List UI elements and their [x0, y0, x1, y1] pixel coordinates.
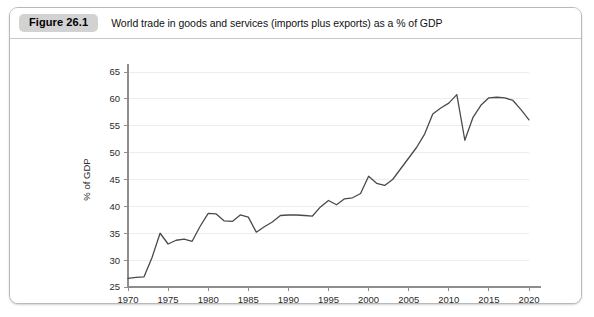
x-tick-label: 1985 [238, 294, 259, 303]
y-axis-ticks-group: 253035404550556065 [109, 66, 128, 292]
y-axis-title: % of GDP [81, 158, 92, 200]
figure-card: Figure 26.1 World trade in goods and ser… [9, 7, 582, 304]
x-axis-ticks-group: 1970197519801985199019952000200520102015… [117, 287, 539, 303]
gridlines-group [128, 72, 529, 260]
x-tick-label: 1990 [278, 294, 299, 303]
x-tick-label: 2020 [518, 294, 539, 303]
x-tick-label: 2010 [438, 294, 459, 303]
y-tick-label: 40 [109, 201, 120, 212]
x-tick-label: 1980 [198, 294, 219, 303]
line-chart: 253035404550556065 197019751980198519901… [10, 39, 583, 303]
chart-plot-region: 253035404550556065 197019751980198519901… [10, 39, 581, 303]
y-tick-label: 55 [109, 120, 120, 131]
figure-header: Figure 26.1 World trade in goods and ser… [10, 8, 581, 39]
x-tick-label: 2015 [478, 294, 499, 303]
y-tick-label: 50 [109, 147, 120, 158]
y-tick-label: 65 [109, 66, 120, 77]
x-tick-label: 2005 [398, 294, 419, 303]
figure-number-badge: Figure 26.1 [19, 14, 98, 32]
figure-caption: World trade in goods and services (impor… [111, 17, 442, 29]
x-tick-label: 1970 [117, 294, 138, 303]
trade-share-series-line [128, 95, 529, 279]
x-tick-label: 2000 [358, 294, 379, 303]
y-tick-label: 60 [109, 93, 120, 104]
y-tick-label: 35 [109, 228, 120, 239]
x-tick-label: 1975 [158, 294, 179, 303]
y-tick-label: 30 [109, 255, 120, 266]
x-tick-label: 1995 [318, 294, 339, 303]
y-tick-label: 45 [109, 174, 120, 185]
y-tick-label: 25 [109, 281, 120, 292]
